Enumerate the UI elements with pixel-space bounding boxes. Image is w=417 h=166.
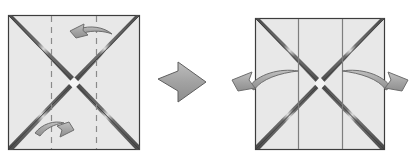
step-transition-arrow-shape xyxy=(158,62,206,102)
unfold-arrow-right-head xyxy=(385,72,408,91)
step-transition-arrow xyxy=(158,62,206,102)
unfold-arrow-left-head xyxy=(232,72,255,91)
left-panel xyxy=(8,15,140,150)
diagram-canvas xyxy=(0,0,417,166)
origami-diagram xyxy=(0,0,417,166)
right-panel xyxy=(232,18,408,150)
